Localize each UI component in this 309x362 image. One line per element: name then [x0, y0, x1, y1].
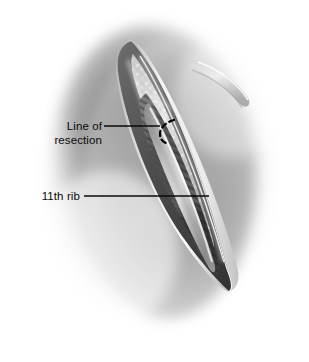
surgical-illustration	[0, 0, 309, 362]
label-line-of-resection: Line of resection	[0, 119, 102, 147]
label-11th-rib: 11th rib	[0, 189, 80, 203]
